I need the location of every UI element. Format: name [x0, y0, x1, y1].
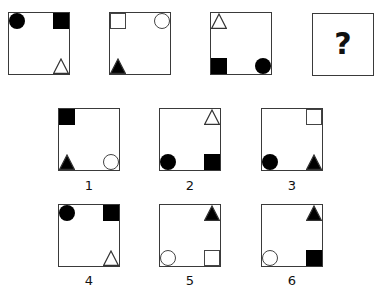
- filled-square-icon: [306, 250, 322, 266]
- filled-triangle-icon: [204, 205, 220, 221]
- outline-circle-icon: [154, 13, 170, 29]
- filled-circle-icon: [59, 205, 75, 221]
- option-2-label: 2: [159, 178, 221, 193]
- filled-circle-icon: [262, 154, 278, 170]
- option-4[interactable]: [58, 204, 120, 267]
- outline-triangle-icon: [53, 58, 69, 74]
- sequence-panel-2: [109, 12, 171, 75]
- filled-circle-icon: [160, 154, 176, 170]
- filled-square-icon: [204, 154, 220, 170]
- filled-circle-icon: [255, 58, 271, 74]
- outline-circle-icon: [160, 250, 176, 266]
- question-mark: ?: [313, 26, 373, 61]
- option-1[interactable]: [58, 108, 120, 171]
- filled-triangle-icon: [306, 154, 322, 170]
- option-3-label: 3: [261, 178, 323, 193]
- sequence-panel-1: [8, 12, 70, 75]
- outline-triangle-icon: [103, 250, 119, 266]
- filled-circle-icon: [9, 13, 25, 29]
- filled-square-icon: [211, 58, 227, 74]
- sequence-panel-3: [210, 12, 272, 75]
- outline-triangle-icon: [204, 109, 220, 125]
- outline-circle-icon: [262, 250, 278, 266]
- outline-square-icon: [306, 109, 322, 125]
- outline-square-icon: [204, 250, 220, 266]
- option-6-label: 6: [261, 273, 323, 288]
- filled-square-icon: [53, 13, 69, 29]
- option-2[interactable]: [159, 108, 221, 171]
- option-4-label: 4: [58, 273, 120, 288]
- filled-triangle-icon: [110, 58, 126, 74]
- option-5[interactable]: [159, 204, 221, 267]
- option-1-label: 1: [58, 178, 120, 193]
- filled-triangle-icon: [59, 154, 75, 170]
- filled-triangle-icon: [306, 205, 322, 221]
- filled-square-icon: [59, 109, 75, 125]
- question-panel: ?: [312, 13, 374, 76]
- option-6[interactable]: [261, 204, 323, 267]
- option-3[interactable]: [261, 108, 323, 171]
- outline-square-icon: [110, 13, 126, 29]
- filled-square-icon: [103, 205, 119, 221]
- option-5-label: 5: [159, 273, 221, 288]
- outline-triangle-icon: [211, 13, 227, 29]
- outline-circle-icon: [103, 154, 119, 170]
